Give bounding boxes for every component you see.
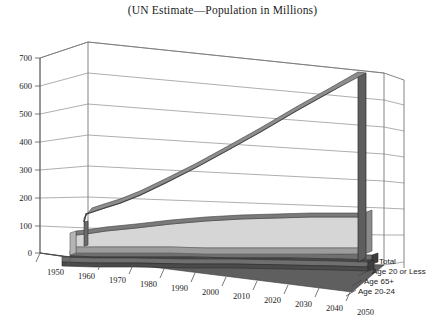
y-tick-label-500: 500 xyxy=(19,109,32,119)
gridlines-right-wall xyxy=(384,73,404,268)
y-tick-label-100: 100 xyxy=(19,221,32,231)
chart-plot-area: 700 600 500 400 300 200 100 0 xyxy=(0,0,445,326)
y-tick-label-200: 200 xyxy=(19,193,32,203)
y-tick-label-700: 700 xyxy=(19,53,32,63)
legend-item-age-20-or-less[interactable]: Age 20 or Less xyxy=(372,267,426,276)
x-tick-label-1980: 1980 xyxy=(140,279,157,289)
y-axis: 700 600 500 400 300 200 100 0 xyxy=(19,53,40,258)
legend-item-age-20-24[interactable]: Age 20-24 xyxy=(358,287,395,296)
legend-item-total[interactable]: Total xyxy=(379,257,396,266)
x-tick-label-1990: 1990 xyxy=(171,283,188,293)
gridlines-left-wall xyxy=(40,42,88,260)
chart-container: (UN Estimate—Population in Millions) xyxy=(0,0,445,326)
x-tick-label-1950: 1950 xyxy=(47,267,64,277)
y-tick-label-400: 400 xyxy=(19,137,32,147)
series-ribbon-age-20-or-less xyxy=(70,210,372,255)
y-tick-label-300: 300 xyxy=(19,165,32,175)
legend-item-age-65-plus[interactable]: Age 65+ xyxy=(364,277,394,286)
x-tick-label-2010: 2010 xyxy=(233,291,250,301)
y-tick-label-600: 600 xyxy=(19,81,32,91)
x-tick-label-2050: 2050 xyxy=(357,307,374,317)
x-tick-label-2040: 2040 xyxy=(326,303,343,313)
x-tick-label-1960: 1960 xyxy=(78,271,95,281)
x-tick-label-2020: 2020 xyxy=(264,295,281,305)
x-tick-label-2000: 2000 xyxy=(202,287,219,297)
x-tick-label-1970: 1970 xyxy=(109,275,126,285)
x-tick-label-2030: 2030 xyxy=(295,299,312,309)
y-tick-label-0: 0 xyxy=(28,248,32,258)
